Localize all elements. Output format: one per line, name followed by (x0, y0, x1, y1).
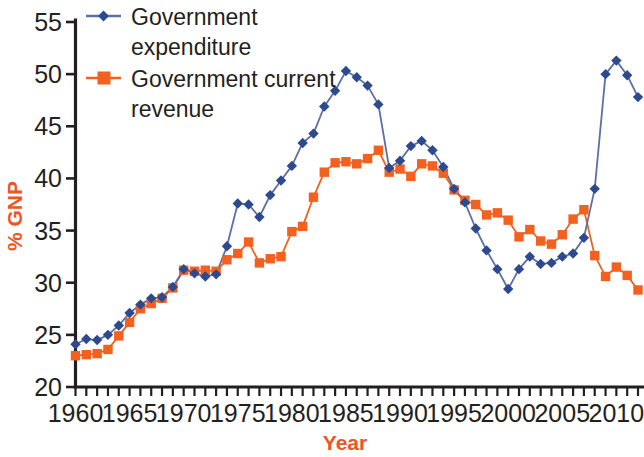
data-point-revenue (114, 331, 123, 340)
data-point-revenue (125, 318, 134, 327)
y-tick-label: 55 (34, 8, 62, 36)
data-point-revenue (428, 161, 437, 170)
series-line-revenue (76, 150, 639, 355)
x-tick-label: 2010 (589, 399, 644, 427)
data-point-revenue (71, 351, 80, 360)
data-point-expenditure (579, 233, 589, 243)
y-tick-labels: 2025303540455055 (34, 8, 62, 401)
data-point-revenue (320, 167, 329, 176)
data-point-revenue (276, 252, 285, 261)
data-point-revenue (92, 349, 101, 358)
data-point-revenue (255, 258, 264, 267)
data-point-expenditure (233, 198, 243, 208)
data-point-revenue (244, 237, 253, 246)
data-point-expenditure (557, 251, 567, 261)
data-point-revenue (298, 222, 307, 231)
series-markers-revenue (71, 146, 643, 361)
data-point-expenditure (81, 334, 91, 344)
data-point-revenue (558, 230, 567, 239)
data-point-revenue (547, 239, 556, 248)
data-point-expenditure (633, 92, 643, 102)
data-point-revenue (406, 172, 415, 181)
legend-label-revenue-line2: revenue (131, 96, 214, 122)
data-point-expenditure (70, 339, 80, 349)
data-point-revenue (633, 285, 642, 294)
data-point-revenue (222, 255, 231, 264)
x-axis-title: Year (323, 431, 367, 454)
data-point-revenue (590, 251, 599, 260)
data-point-expenditure (373, 99, 383, 109)
x-tick-label: 1965 (102, 399, 158, 427)
data-point-revenue (622, 271, 631, 280)
data-point-expenditure (535, 259, 545, 269)
data-point-revenue (601, 272, 610, 281)
legend-label-revenue-line1: Government current (131, 66, 336, 92)
data-point-revenue (103, 345, 112, 354)
legend-label-expenditure-line2: expenditure (131, 34, 251, 60)
data-point-revenue (287, 227, 296, 236)
x-tick-label: 1990 (372, 399, 428, 427)
x-tick-label: 2000 (480, 399, 536, 427)
data-point-revenue (514, 232, 523, 241)
y-axis-title: % GNP (3, 181, 26, 251)
x-tick-label: 1985 (318, 399, 374, 427)
data-point-revenue (352, 159, 361, 168)
data-point-expenditure (481, 245, 491, 255)
data-point-expenditure (590, 184, 600, 194)
x-tick-label: 1995 (426, 399, 482, 427)
x-tick-label: 1960 (48, 399, 104, 427)
x-tick-labels: 1960196519701975198019851990199520002005… (48, 399, 644, 427)
y-tick-label: 45 (34, 112, 62, 140)
data-point-revenue (374, 146, 383, 155)
legend-square-icon (98, 72, 111, 85)
data-point-expenditure (568, 248, 578, 258)
data-point-revenue (363, 154, 372, 163)
data-point-revenue (579, 205, 588, 214)
x-tick-label: 2005 (534, 399, 590, 427)
data-point-expenditure (319, 101, 329, 111)
y-tick-label: 35 (34, 217, 62, 245)
y-tick-label: 20 (34, 373, 62, 401)
data-point-expenditure (341, 66, 351, 76)
data-point-revenue (503, 215, 512, 224)
x-tick-label: 1970 (156, 399, 212, 427)
x-tick-label: 1980 (264, 399, 320, 427)
data-point-revenue (493, 208, 502, 217)
data-point-expenditure (503, 284, 513, 294)
data-point-revenue (266, 254, 275, 263)
y-tick-label: 40 (34, 164, 62, 192)
y-tick-label: 25 (34, 321, 62, 349)
data-point-expenditure (92, 335, 102, 345)
data-point-expenditure (471, 223, 481, 233)
data-point-revenue (525, 225, 534, 234)
data-point-expenditure (222, 241, 232, 251)
data-point-revenue (536, 236, 545, 245)
y-tick-label: 50 (34, 60, 62, 88)
x-tick-label: 1975 (210, 399, 266, 427)
data-point-revenue (233, 249, 242, 258)
data-point-revenue (330, 158, 339, 167)
data-point-revenue (341, 157, 350, 166)
chart-container: 2025303540455055 19601965197019751980198… (0, 0, 644, 457)
data-point-revenue (417, 159, 426, 168)
legend: Government expenditure Government curren… (86, 4, 336, 122)
data-point-expenditure (492, 264, 502, 274)
data-point-revenue (82, 350, 91, 359)
data-point-revenue (309, 193, 318, 202)
y-tick-label: 30 (34, 269, 62, 297)
data-point-revenue (471, 200, 480, 209)
data-point-expenditure (546, 258, 556, 268)
data-point-revenue (482, 210, 491, 219)
line-chart: 2025303540455055 19601965197019751980198… (0, 0, 644, 457)
legend-diamond-icon (98, 11, 109, 22)
legend-label-expenditure-line1: Government (131, 4, 258, 30)
data-point-revenue (568, 214, 577, 223)
data-point-revenue (612, 262, 621, 271)
